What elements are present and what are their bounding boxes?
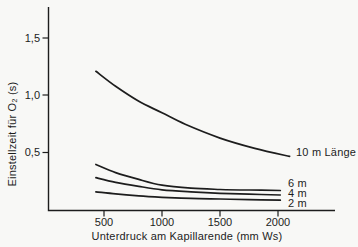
- y-tick-marks: [43, 38, 49, 153]
- line-label-2m: 2 m: [288, 197, 307, 209]
- line-labels: 10 m Länge 6 m 4 m 2 m: [288, 146, 356, 209]
- settling-time-chart: 1,5 1,0 0,5 500 1000 1500 2000 Unterdruc…: [0, 0, 358, 247]
- curve-10-m-länge: [96, 71, 290, 156]
- x-tick-label-2000: 2000: [266, 216, 290, 228]
- y-tick-label-0-5: 0,5: [25, 146, 40, 158]
- x-tick-label-1000: 1000: [150, 216, 174, 228]
- curves: [96, 71, 290, 200]
- x-axis-title: Unterdruck am Kapillarende (mm Ws): [92, 230, 283, 242]
- chart-svg: 1,5 1,0 0,5 500 1000 1500 2000 Unterdruc…: [0, 0, 358, 247]
- y-tick-label-1-5: 1,5: [25, 32, 40, 44]
- curve-2-m: [96, 192, 280, 200]
- curve-6-m: [96, 165, 280, 191]
- y-axis-title: Einstellzeit für O₂ (s): [6, 82, 18, 187]
- line-label-10m: 10 m Länge: [296, 146, 356, 158]
- x-tick-label-1500: 1500: [208, 216, 232, 228]
- tick-labels: 1,5 1,0 0,5 500 1000 1500 2000: [25, 32, 291, 229]
- x-tick-marks: [104, 211, 278, 217]
- curve-4-m: [96, 178, 280, 195]
- y-tick-label-1-0: 1,0: [25, 89, 40, 101]
- x-tick-label-500: 500: [95, 216, 113, 228]
